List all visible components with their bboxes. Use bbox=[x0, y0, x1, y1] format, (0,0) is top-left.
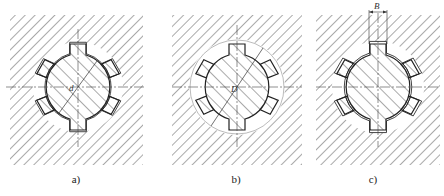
panel-a: d bbox=[6, 15, 144, 165]
caption-b: b) bbox=[231, 173, 240, 185]
caption-a: a) bbox=[72, 173, 81, 185]
panel-b: D bbox=[172, 15, 302, 165]
panel-c: B bbox=[316, 1, 440, 165]
spline-centering-figure: d D B bbox=[0, 0, 444, 196]
dimension-label-D: D bbox=[230, 84, 238, 94]
dimension-label-d: d bbox=[69, 83, 74, 93]
caption-c: c) bbox=[369, 173, 378, 185]
dimension-label-B: B bbox=[374, 1, 380, 11]
